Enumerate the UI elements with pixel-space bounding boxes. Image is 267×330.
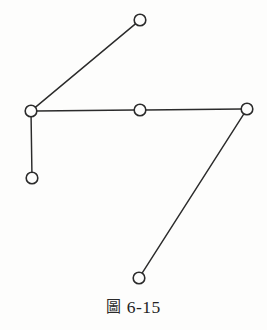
graph-diagram bbox=[0, 0, 267, 296]
graph-node bbox=[134, 104, 146, 116]
graph-edge bbox=[142, 113, 244, 273]
graph-node bbox=[26, 172, 38, 184]
figure-page: 圖6-15 bbox=[0, 0, 267, 330]
graph-node bbox=[25, 105, 37, 117]
graph-edge bbox=[35, 23, 136, 107]
edge-layer bbox=[31, 23, 244, 273]
graph-edge bbox=[31, 116, 32, 173]
graph-edge bbox=[145, 109, 242, 110]
graph-edge bbox=[36, 110, 135, 111]
caption-number: 6-15 bbox=[127, 297, 161, 317]
figure-caption: 圖6-15 bbox=[0, 296, 267, 319]
node-layer bbox=[25, 14, 253, 284]
graph-node bbox=[241, 103, 253, 115]
graph-node bbox=[134, 14, 146, 26]
graph-node bbox=[133, 272, 145, 284]
caption-label: 圖 bbox=[106, 298, 122, 316]
